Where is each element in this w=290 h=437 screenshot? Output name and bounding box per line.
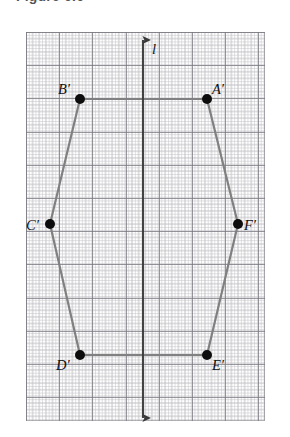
vertex-label-a-prime: A′ bbox=[212, 82, 224, 97]
figure-page: Figure 6.6 A′B′C′D′E′F′ l bbox=[0, 0, 290, 437]
polygon-vertices bbox=[45, 94, 243, 360]
vertex-f-prime bbox=[233, 219, 243, 229]
vertex-d-prime bbox=[75, 350, 85, 360]
line-l-label: l bbox=[152, 42, 156, 57]
polygon-edge-c-prime-b-prime bbox=[50, 99, 80, 224]
polygon-edge-a-prime-f-prime bbox=[207, 99, 238, 224]
vertex-label-c-prime: C′ bbox=[26, 218, 39, 233]
vertex-b-prime bbox=[75, 94, 85, 104]
vertex-c-prime bbox=[45, 219, 55, 229]
polygon-edge-d-prime-c-prime bbox=[50, 224, 80, 355]
vertex-label-e-prime: E′ bbox=[212, 358, 224, 373]
vertex-label-f-prime: F′ bbox=[244, 218, 256, 233]
vertex-label-b-prime: B′ bbox=[58, 82, 70, 97]
vertex-a-prime bbox=[202, 94, 212, 104]
vertex-e-prime bbox=[202, 350, 212, 360]
polygon-edges bbox=[50, 99, 238, 355]
vertex-label-d-prime: D′ bbox=[56, 358, 70, 373]
polygon-edge-f-prime-e-prime bbox=[207, 224, 238, 355]
